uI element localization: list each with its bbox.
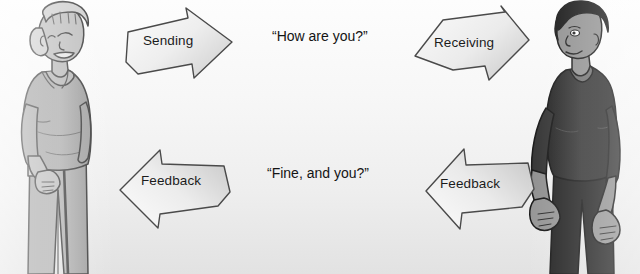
speech-text-bottom: “Fine, and you?” <box>267 165 369 181</box>
arrow-feedback-left-label: Feedback <box>141 173 201 188</box>
speech-text-top: “How are you?” <box>272 28 368 44</box>
arrow-receiving <box>413 6 531 96</box>
arrow-sending-label: Sending <box>143 33 193 48</box>
diagram-canvas: Sending Receiving <box>0 0 640 274</box>
arrow-sending <box>124 6 236 92</box>
figure-older-woman <box>2 0 122 274</box>
arrow-feedback-right <box>424 147 540 235</box>
arrow-feedback-right-label: Feedback <box>440 176 500 191</box>
arrow-receiving-label: Receiving <box>434 35 494 50</box>
arrow-feedback-left <box>118 148 233 236</box>
